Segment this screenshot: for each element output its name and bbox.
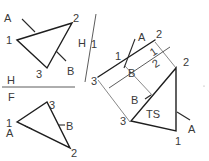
top-view-label-1: 1 <box>6 34 12 46</box>
fold-label-h: H <box>7 74 15 86</box>
front-view-label-3: 3 <box>49 99 55 111</box>
top-view-label-2: 2 <box>73 12 79 24</box>
top-view-label-b: B <box>67 65 74 77</box>
true-shape-label-2: 2 <box>183 56 189 68</box>
top-view: A 1 2 3 B <box>4 12 79 80</box>
fold-label-f: F <box>8 91 15 103</box>
top-view-label-a: A <box>4 12 12 24</box>
edge-view: 3 1 A 2 B <box>91 28 176 122</box>
top-view-line-a <box>22 19 35 32</box>
front-view: 3 1 A B 2 <box>6 99 77 159</box>
front-view-label-a: A <box>6 127 14 139</box>
fold-label-12-2: 2 <box>150 56 162 69</box>
fold-line-h1: H 1 <box>78 14 97 82</box>
true-shape-label-3: 3 <box>120 115 126 127</box>
front-view-line-a <box>25 126 32 129</box>
edge-view-label-2: 2 <box>156 28 162 40</box>
fold-label-h1-1: 1 <box>91 38 97 50</box>
true-shape-label-b: B <box>131 94 138 106</box>
front-view-label-b: B <box>66 120 73 132</box>
top-view-triangle <box>17 23 72 68</box>
top-view-label-3: 3 <box>36 68 42 80</box>
front-view-label-2: 2 <box>71 147 77 159</box>
diagram-svg: A 1 2 3 B H F 3 1 A B 2 H 1 3 1 A 2 <box>0 0 209 161</box>
edge-view-line <box>98 40 155 77</box>
edge-view-label-1: 1 <box>115 50 121 62</box>
top-view-line-b <box>56 51 66 61</box>
edge-view-label-3: 3 <box>91 75 97 87</box>
edge-view-label-a: A <box>138 31 146 43</box>
true-shape-label-ts: TS <box>146 108 160 120</box>
speck-mark <box>203 85 204 86</box>
true-shape-label-1: 1 <box>175 135 181 147</box>
true-shape-line-a <box>177 112 190 120</box>
true-shape-label-a: A <box>188 123 196 135</box>
fold-label-h1-h: H <box>78 37 86 49</box>
diagram-canvas: A 1 2 3 B H F 3 1 A B 2 H 1 3 1 A 2 <box>0 0 209 161</box>
